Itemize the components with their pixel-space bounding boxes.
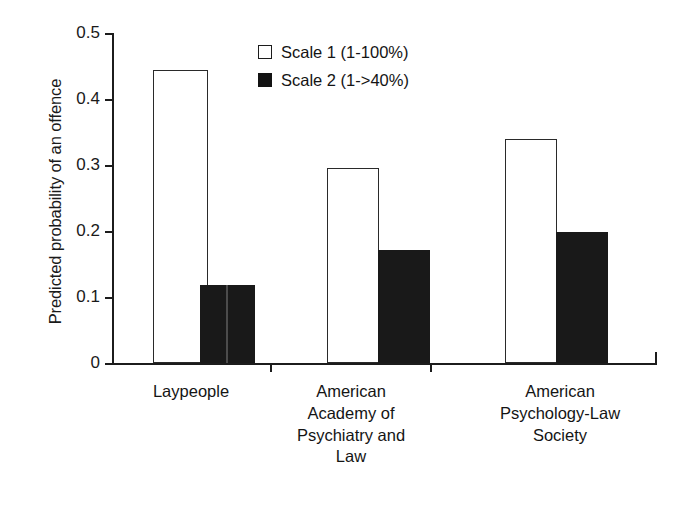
x-category-line: American [465,381,655,403]
x-end-tick [655,352,657,364]
x-category-label-laypeople: Laypeople [111,381,271,403]
y-tick-label-0.3: 0.3 [40,156,100,173]
x-category-label-apls: American Psychology-Law Society [465,381,655,446]
y-tick-0.3 [105,165,113,167]
x-category-label-aapl: American Academy of Psychiatry and Law [272,381,430,468]
x-category-line: Academy of [272,403,430,425]
y-tick-label-0.4: 0.4 [40,90,100,107]
y-tick-0.4 [105,99,113,101]
y-tick-label-0.5: 0.5 [40,24,100,41]
bar-aapl-scale2 [378,250,430,363]
legend: Scale 1 (1-100%) Scale 2 (1->40%) [258,38,409,94]
bar-aapl-scale1 [327,168,379,363]
bar-notch-icon [226,285,228,363]
filled-square-icon [258,73,272,87]
legend-item-scale2: Scale 2 (1->40%) [258,66,409,94]
bar-apls-scale1 [505,139,557,363]
x-category-line: American [272,381,430,403]
y-axis-title: Predicted probability of an offence [46,37,65,367]
y-tick-0 [105,363,113,365]
legend-item-scale1: Scale 1 (1-100%) [258,38,409,66]
y-tick-label-0.2: 0.2 [40,222,100,239]
y-tick-0.2 [105,231,113,233]
open-square-icon [258,45,272,59]
x-sep-tick-2 [430,363,432,372]
x-category-line: Laypeople [111,381,271,403]
x-axis-line [112,363,657,365]
legend-label-scale2: Scale 2 (1->40%) [281,72,409,89]
y-tick-label-0: 0 [40,354,100,371]
bar-apls-scale2 [556,232,608,363]
y-axis-line [112,33,114,364]
bar-laypeople-scale2 [200,285,255,363]
y-tick-label-0.1: 0.1 [40,288,100,305]
x-category-line: Law [272,446,430,468]
legend-label-scale1: Scale 1 (1-100%) [281,44,408,61]
x-category-line: Psychology-Law [465,403,655,425]
bar-chart: Predicted probability of an offence 0.5 … [0,0,685,509]
x-category-line: Psychiatry and [272,425,430,447]
x-category-line: Society [465,425,655,447]
y-tick-0.5 [105,33,113,35]
y-tick-0.1 [105,297,113,299]
x-sep-tick-1 [270,363,272,372]
